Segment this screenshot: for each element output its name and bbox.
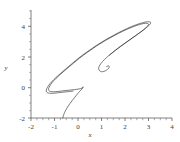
- x-tick-label: -1: [52, 123, 58, 131]
- y-tick-label: 2: [22, 54, 26, 62]
- y-tick-label: 4: [22, 23, 26, 31]
- trajectory-curve-outer-pass: [46, 22, 150, 94]
- x-tick-label: 4: [170, 123, 174, 131]
- y-tick-labels: 4 2 0 -2: [19, 23, 25, 123]
- y-tick-label: -2: [19, 115, 25, 123]
- x-axis-title: x: [87, 131, 92, 139]
- y-axis-title: y: [3, 64, 8, 72]
- x-tick-label: 0: [76, 123, 80, 131]
- x-tick-labels: -2 -1 0 1 2 3 4: [28, 123, 174, 131]
- x-tick-label: -2: [28, 123, 34, 131]
- x-tick-label: 1: [100, 123, 104, 131]
- phase-portrait-figure: 4 2 0 -2 -2 -1 0 1 2 3 4 x y: [0, 0, 180, 142]
- y-axis-ticks: [28, 11, 31, 118]
- x-axis-ticks: [31, 118, 172, 121]
- plot-canvas: 4 2 0 -2 -2 -1 0 1 2 3 4 x y: [0, 0, 180, 142]
- y-tick-label: 0: [22, 84, 26, 92]
- x-tick-label: 3: [147, 123, 151, 131]
- x-tick-label: 2: [123, 123, 127, 131]
